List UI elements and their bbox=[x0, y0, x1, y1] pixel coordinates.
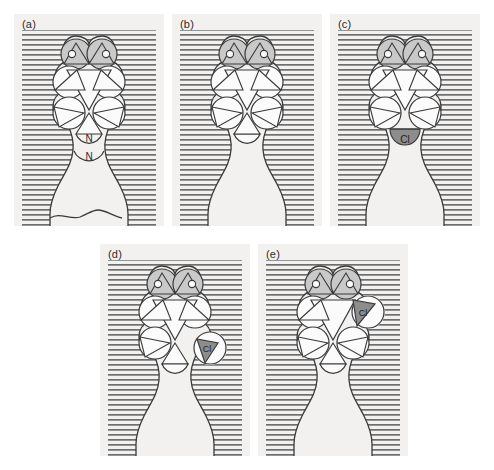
panel-c-graphic: Cl bbox=[330, 14, 480, 226]
panel-e-graphic: Cl bbox=[258, 244, 408, 456]
panel-c-label: (c) bbox=[338, 18, 351, 30]
oxygen-marker-right bbox=[260, 50, 267, 57]
panel-b: (b) bbox=[172, 14, 322, 226]
oxygen-marker-left bbox=[384, 50, 391, 57]
panel-d: Cl (d) bbox=[100, 244, 250, 456]
chlorine-label: Cl bbox=[400, 134, 409, 145]
nitrogen-label-1: N bbox=[85, 133, 92, 144]
panel-a: N N o o (a) bbox=[14, 14, 164, 226]
chlorine-label: Cl bbox=[203, 344, 212, 354]
panel-b-graphic bbox=[172, 14, 322, 226]
panel-a-label: (a) bbox=[22, 18, 36, 30]
panel-a-graphic: N N o o bbox=[14, 14, 164, 226]
panel-d-label: (d) bbox=[108, 248, 122, 260]
oxygen-marker-left bbox=[226, 50, 233, 57]
panel-e: Cl (e) bbox=[258, 244, 408, 456]
oxygen-marker-right bbox=[188, 280, 195, 287]
panel-b-label: (b) bbox=[180, 18, 194, 30]
oxygen-marker-left bbox=[154, 280, 161, 287]
oxygen-marker-right bbox=[346, 280, 353, 287]
figure-canvas: N N o o (a) bbox=[0, 0, 494, 470]
panel-d-graphic: Cl bbox=[100, 244, 250, 456]
oxygen-marker-left bbox=[312, 280, 319, 287]
panel-c: Cl (c) bbox=[330, 14, 480, 226]
nitrogen-label-2: N bbox=[85, 151, 92, 162]
chlorine-label: Cl bbox=[359, 308, 368, 318]
panel-e-label: (e) bbox=[266, 248, 280, 260]
oxygen-marker-right bbox=[418, 50, 425, 57]
